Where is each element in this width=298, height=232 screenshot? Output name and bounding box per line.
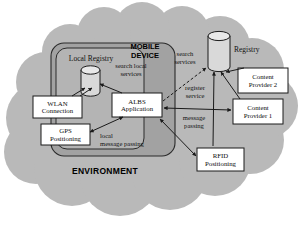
albs-application-label: ALBS Application [112,93,162,117]
content-provider-1-label-line2: Provider 1 [244,112,273,119]
albs-application-label-line1: ALBS [128,98,145,105]
registry-cylinder [208,31,230,71]
content-provider-2-label-line2: Provider 2 [249,81,278,88]
content-provider-1-label: Content Provider 1 [233,99,283,124]
wlan-connection-label-line1: WLAN [47,100,67,107]
content-provider-2-label: Content Provider 2 [238,68,288,93]
wlan-connection-label: WLAN Connection [33,96,82,118]
gps-positioning-label: GPS Positioning [41,124,90,145]
rfid-positioning-label: RFID Positioning [197,148,244,171]
rfid-positioning-label-line1: RFID [213,152,229,159]
content-provider-1-label-line1: Content [247,104,269,111]
diagram-canvas: Local Registry Registry MOBILE DEVICE EN… [0,0,298,232]
local-registry-cylinder [81,66,100,96]
content-provider-2-label-line1: Content [252,73,274,80]
gps-positioning-label-line1: GPS [59,127,71,134]
albs-application-label-line2: Application [121,105,153,112]
wlan-connection-label-line2: Connection [42,107,73,114]
gps-positioning-label-line2: Positioning [50,135,81,142]
rfid-positioning-label-line2: Positioning [205,160,236,167]
